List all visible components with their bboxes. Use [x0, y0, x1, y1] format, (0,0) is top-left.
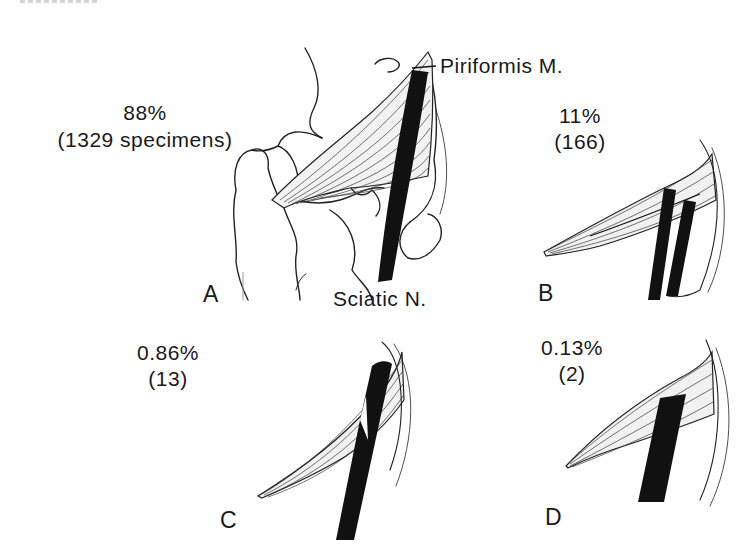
panel-a-letter: A: [203, 281, 218, 307]
panel-a-drawing: [234, 48, 447, 300]
anatomical-illustration: [0, 0, 756, 559]
panel-b-percent: 11%: [530, 103, 630, 128]
panel-a-count: (1329 specimens): [38, 127, 252, 152]
sciatic-nerve-label: Sciatic N.: [333, 286, 427, 311]
panel-c-drawing: [258, 342, 411, 540]
panel-b-count: (166): [530, 129, 630, 154]
panel-d-count: (2): [522, 361, 622, 386]
panel-b-letter: B: [538, 280, 553, 306]
panel-a-percent: 88%: [38, 100, 252, 125]
panel-c-letter: C: [220, 507, 237, 533]
panel-c-percent: 0.86%: [118, 340, 218, 365]
panel-d-percent: 0.13%: [522, 335, 622, 360]
panel-d-letter: D: [545, 504, 562, 530]
panel-c-count: (13): [118, 366, 218, 391]
panel-b-drawing: [544, 140, 724, 300]
piriformis-label: Piriformis M.: [440, 53, 563, 78]
